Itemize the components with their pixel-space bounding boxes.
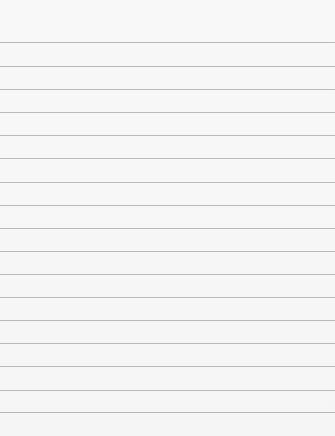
ruled-line <box>0 66 335 67</box>
ruled-line <box>0 274 335 275</box>
lined-paper-page <box>0 0 335 436</box>
ruled-line <box>0 112 335 113</box>
ruled-line <box>0 297 335 298</box>
ruled-line <box>0 412 335 413</box>
ruled-line <box>0 205 335 206</box>
ruled-line <box>0 228 335 229</box>
ruled-line <box>0 158 335 159</box>
ruled-line <box>0 182 335 183</box>
ruled-line <box>0 320 335 321</box>
ruled-line <box>0 390 335 391</box>
ruled-line <box>0 89 335 90</box>
ruled-line <box>0 343 335 344</box>
ruled-line <box>0 42 335 43</box>
ruled-line <box>0 366 335 367</box>
ruled-line <box>0 251 335 252</box>
ruled-line <box>0 135 335 136</box>
